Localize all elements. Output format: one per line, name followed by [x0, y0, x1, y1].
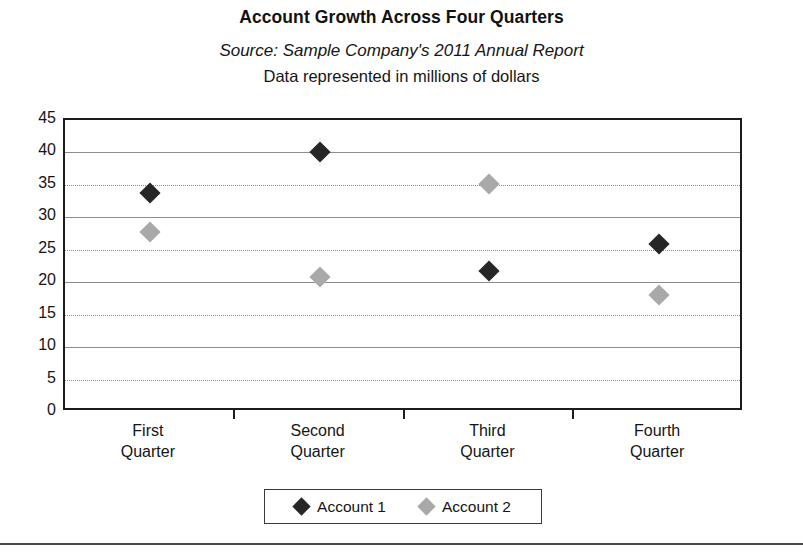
x-axis: First QuarterSecond QuarterThird Quarter… [63, 421, 742, 481]
gridline [65, 380, 740, 381]
y-axis-tick-label: 30 [10, 207, 56, 223]
y-axis-tick-label: 10 [10, 337, 56, 353]
x-axis-tick [233, 410, 235, 419]
diamond-marker-icon [292, 497, 310, 515]
data-point-marker [139, 183, 160, 204]
x-axis-tick-label: First Quarter [121, 421, 175, 463]
gridline [65, 315, 740, 316]
gridline [65, 250, 740, 251]
gridline [65, 282, 740, 283]
y-axis: 454035302520151050 [8, 118, 56, 410]
y-axis-tick-label: 25 [10, 240, 56, 256]
data-point-marker [479, 173, 500, 194]
gridline [65, 185, 740, 186]
plot-area [63, 118, 742, 410]
data-point-marker [309, 142, 330, 163]
y-axis-tick-label: 45 [10, 110, 56, 126]
chart-subtitle: Data represented in millions of dollars [0, 66, 803, 87]
x-axis-tick-label: Fourth Quarter [630, 421, 684, 463]
data-point-marker [139, 221, 160, 242]
legend-label: Account 2 [442, 499, 511, 515]
data-point-marker [649, 284, 670, 305]
y-axis-tick-label: 40 [10, 142, 56, 158]
x-axis-tick-label: Third Quarter [460, 421, 514, 463]
legend-item-account-1[interactable]: Account 1 [295, 499, 386, 515]
gridline [65, 347, 740, 348]
y-axis-tick-label: 5 [10, 370, 56, 386]
gridline [65, 152, 740, 153]
data-point-marker [649, 233, 670, 254]
y-axis-tick-label: 20 [10, 272, 56, 288]
y-axis-tick-label: 15 [10, 305, 56, 321]
data-point-marker [309, 266, 330, 287]
x-axis-tick [572, 410, 574, 419]
page-divider [0, 543, 803, 545]
y-axis-tick-label: 35 [10, 175, 56, 191]
diamond-marker-icon [417, 497, 435, 515]
y-axis-tick-label: 0 [10, 402, 56, 418]
chart-legend: Account 1 Account 2 [264, 489, 542, 524]
chart-source-line: Source: Sample Company's 2011 Annual Rep… [0, 40, 803, 61]
gridline [65, 217, 740, 218]
chart-title: Account Growth Across Four Quarters [0, 8, 803, 27]
plot-inner [65, 120, 740, 408]
x-axis-tick-label: Second Quarter [290, 421, 344, 463]
chart-figure: Account Growth Across Four Quarters Sour… [0, 0, 803, 558]
title-block: Account Growth Across Four Quarters Sour… [0, 8, 803, 86]
x-axis-tick [403, 410, 405, 419]
legend-label: Account 1 [317, 499, 386, 515]
data-point-marker [479, 261, 500, 282]
legend-item-account-2[interactable]: Account 2 [420, 499, 511, 515]
